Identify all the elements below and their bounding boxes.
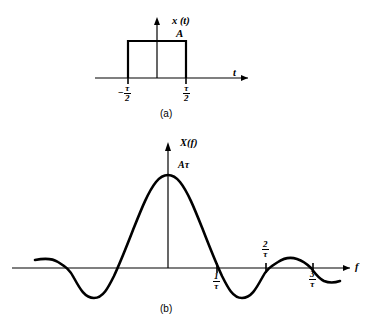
numerator: 2 [262,240,269,249]
numerator: τ [183,84,190,93]
numerator: τ [124,84,131,93]
amplitude-label-A: A [176,28,183,39]
panel-a-tick-label-neg-tau-over-2: − τ 2 [124,84,131,104]
panel-b-y-axis-label: X(f) [180,138,198,149]
panel-a-y-arrowhead [154,17,160,25]
panel-b-y-axis [165,142,171,268]
numerator: 3 [309,270,316,279]
peak-label-A-tau: Aτ [178,160,189,170]
panel-a-tick-label-tau-over-2: τ 2 [183,84,190,104]
denominator: 2 [124,93,131,103]
numerator: 1 [213,272,220,281]
denominator: τ [309,279,316,289]
panel-a-x-axis-label: t [233,68,236,79]
panel-a-caption: (a) [160,108,172,119]
panel-b-tick-label-2-over-tau: 2 τ [262,240,269,260]
figure-container: x (t) A t − τ 2 τ 2 (a) X(f) Aτ f [0,0,368,328]
panel-b-tick-label-1-over-tau: 1 τ [213,272,220,292]
panel-b-caption: (b) [160,303,172,314]
panel-a-y-axis [154,17,160,78]
panel-b-x-axis-label: f [355,262,359,273]
sinc-curve [35,175,340,298]
denominator: τ [262,249,269,259]
denominator: τ [213,281,220,291]
panel-b-y-arrowhead [165,142,171,151]
panel-b-x-arrowhead [343,265,350,271]
panel-b-tick-label-3-over-tau: 3 τ [309,270,316,290]
denominator: 2 [183,93,190,103]
panel-a-y-axis-label: x (t) [172,16,190,27]
minus-sign: − [118,88,124,99]
panel-a-x-arrowhead [241,75,248,81]
panel-a-x-axis [95,75,248,81]
